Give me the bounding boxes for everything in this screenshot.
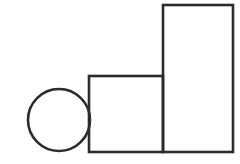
figure-canvas: Geometric shapes line drawing A circle t…	[0, 0, 240, 164]
shapes-diagram: Geometric shapes line drawing A circle t…	[0, 0, 240, 164]
